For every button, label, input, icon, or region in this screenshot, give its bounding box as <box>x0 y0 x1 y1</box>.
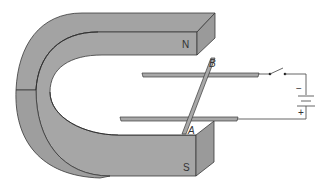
south-pole-label: S <box>183 162 190 173</box>
upper-rail <box>142 73 259 77</box>
magnet-front-face <box>36 32 197 176</box>
battery <box>297 96 315 106</box>
lower-rail <box>120 117 238 121</box>
battery-positive-label: + <box>298 107 304 118</box>
rod-end-label-b: B <box>209 58 216 69</box>
battery-negative-label: − <box>296 83 302 94</box>
horseshoe-magnet: N S <box>16 13 215 178</box>
switch-lever[interactable] <box>270 68 283 74</box>
wire-to-battery-bottom <box>237 106 306 119</box>
rod-end-label-a: A <box>187 125 195 136</box>
north-pole-label: N <box>182 39 189 50</box>
diagram-canvas: N S − + B A <box>0 0 321 186</box>
switch[interactable] <box>269 68 287 75</box>
